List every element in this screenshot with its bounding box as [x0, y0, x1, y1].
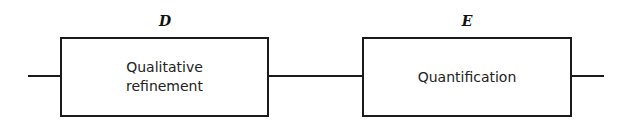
flow-diagram: D Qualitative refinement E Quantificatio… [0, 0, 630, 122]
connector-line-d-e [267, 75, 363, 77]
block-e-label: E [452, 13, 482, 29]
block-d-text: Qualitative refinement [126, 58, 203, 96]
output-line [571, 75, 604, 77]
input-line [28, 75, 61, 77]
block-qualitative-refinement: Qualitative refinement [60, 37, 269, 117]
block-quantification: Quantification [362, 37, 572, 117]
block-d-label: D [150, 13, 180, 29]
block-e-text: Quantification [418, 68, 517, 87]
